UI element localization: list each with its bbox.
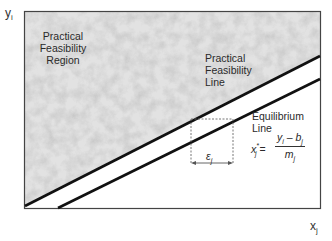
feasibility-line-label: Practical Feasibility Line	[205, 52, 252, 88]
region-label: Practical Feasibility Region	[38, 30, 88, 66]
epsilon-label: εj	[206, 150, 212, 167]
y-axis-label: yi	[5, 6, 13, 22]
equation-lhs: x*j =	[251, 140, 266, 160]
equation-fraction: yi – bj mj	[275, 131, 305, 162]
x-axis-label: xj	[310, 219, 318, 235]
